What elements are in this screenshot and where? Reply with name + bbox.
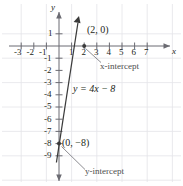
x-intercept-callout-label: x-intercept [100, 62, 139, 71]
point-marker-y-intercept [57, 142, 61, 146]
plotted-line-arrow [74, 16, 81, 23]
x-tick-label-7: 7 [144, 48, 149, 57]
y-tick-label--7: -7 [44, 127, 52, 136]
x-tick-label-1: 1 [69, 48, 74, 57]
y-intercept-callout-label: y-intercept [85, 167, 124, 176]
x-tick-label--2: -2 [27, 48, 35, 57]
y-axis-label: y [51, 3, 55, 12]
equation-label: y = 4x − 8 [73, 84, 115, 94]
y-tick-label--9: -9 [44, 151, 52, 160]
x-axis-label: x [172, 47, 176, 56]
y-tick-label--5: -5 [44, 102, 52, 111]
y-tick-label--6: -6 [44, 115, 52, 124]
graph-figure: -3 -2 -1 1 2 3 4 5 6 7 1 -1 -2 -3 -4 -5 … [0, 0, 183, 186]
x-tick-label-6: 6 [132, 48, 137, 57]
y-axis [56, 12, 63, 181]
x-tick-label--3: -3 [14, 48, 22, 57]
x-intercept-coordinate-label: (2, 0) [87, 25, 109, 35]
y-tick-label--8: -8 [44, 139, 52, 148]
y-intercept-coordinate-label: (0, −8) [62, 138, 89, 148]
x-tick-label-5: 5 [119, 48, 124, 57]
y-tick-label--2: -2 [44, 66, 52, 75]
y-tick-label-1: 1 [48, 29, 53, 38]
x-axis-arrow [164, 43, 171, 49]
x-tick-label-2: 2 [82, 48, 87, 57]
y-tick-label--3: -3 [44, 78, 52, 87]
x-tick-label-3: 3 [94, 48, 99, 57]
y-tick-label--4: -4 [44, 90, 52, 99]
y-axis-arrow-top [56, 12, 62, 19]
y-tick-label--1: -1 [44, 54, 52, 63]
callout-leaders [62, 49, 102, 170]
x-tick-label-4: 4 [107, 48, 112, 57]
